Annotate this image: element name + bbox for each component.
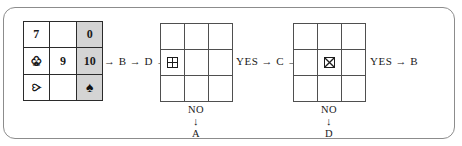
board-grid-1 <box>160 23 232 101</box>
source-cell-r0c1 <box>49 21 77 49</box>
flow-diagram: 7 0 ♣ 6 10 ♥ ♠ <box>4 8 454 138</box>
no-branch-1-condition: NO <box>166 104 226 115</box>
board1-cell-r1c1 <box>184 49 209 76</box>
connector-label-yes-c: YES → C → <box>236 56 299 67</box>
board1-cell-r1c0 <box>160 49 185 76</box>
source-cell-r0c0-text: 7 <box>33 28 39 40</box>
board1-cell-r0c2 <box>208 23 233 50</box>
club-icon: ♣ <box>32 54 41 68</box>
source-cell-r0c2-text: 0 <box>87 28 93 40</box>
board2-cell-r2c2 <box>341 75 366 102</box>
board2-cell-r1c1 <box>317 49 342 76</box>
board2-cell-r2c1 <box>317 75 342 102</box>
board1-cell-r1c2 <box>208 49 233 76</box>
board-grid-2 <box>293 23 365 101</box>
source-card-grid: 7 0 ♣ 6 10 ♥ ♠ <box>23 21 103 101</box>
board1-cell-r2c2 <box>208 75 233 102</box>
board2-cell-r2c0 <box>293 75 318 102</box>
connector-label-yes-b: YES → B <box>370 56 418 67</box>
no-branch-2-condition: NO <box>299 104 359 115</box>
board2-cell-r1c0 <box>293 49 318 76</box>
source-cell-r0c0: 7 <box>23 21 51 49</box>
down-arrow-icon: ↓ <box>166 116 226 127</box>
no-branch-2-target: D <box>299 128 359 139</box>
board2-cell-r0c1 <box>317 23 342 50</box>
source-cell-r0c2: 0 <box>76 21 104 49</box>
heart-icon: ♥ <box>30 84 43 92</box>
source-cell-r1c2-text: 10 <box>84 55 96 67</box>
board1-cell-r0c0 <box>160 23 185 50</box>
no-branch-board-1: NO ↓ A <box>166 104 226 139</box>
figure-frame: 7 0 ♣ 6 10 ♥ ♠ <box>3 7 455 139</box>
board1-cell-r2c0 <box>160 75 185 102</box>
connector-label-b-d: → B → D → <box>104 56 168 67</box>
source-cell-r1c2: 10 <box>76 47 104 75</box>
source-cell-r2c2: ♠ <box>76 74 104 102</box>
source-cell-r1c1-text: 6 <box>60 55 66 67</box>
source-cell-r1c0: ♣ <box>23 47 51 75</box>
source-cell-r1c1: 6 <box>49 47 77 75</box>
spade-icon: ♠ <box>86 81 93 95</box>
board2-cell-r1c2 <box>341 49 366 76</box>
board2-cell-r0c0 <box>293 23 318 50</box>
no-branch-1-target: A <box>166 128 226 139</box>
source-cell-r2c1 <box>49 74 77 102</box>
down-arrow-icon: ↓ <box>299 116 359 127</box>
board1-cell-r2c1 <box>184 75 209 102</box>
crossed-square-icon <box>324 57 335 68</box>
board2-cell-r0c2 <box>341 23 366 50</box>
quartered-square-icon <box>167 57 178 68</box>
board1-cell-r0c1 <box>184 23 209 50</box>
no-branch-board-2: NO ↓ D <box>299 104 359 139</box>
source-cell-r2c0: ♥ <box>23 74 51 102</box>
